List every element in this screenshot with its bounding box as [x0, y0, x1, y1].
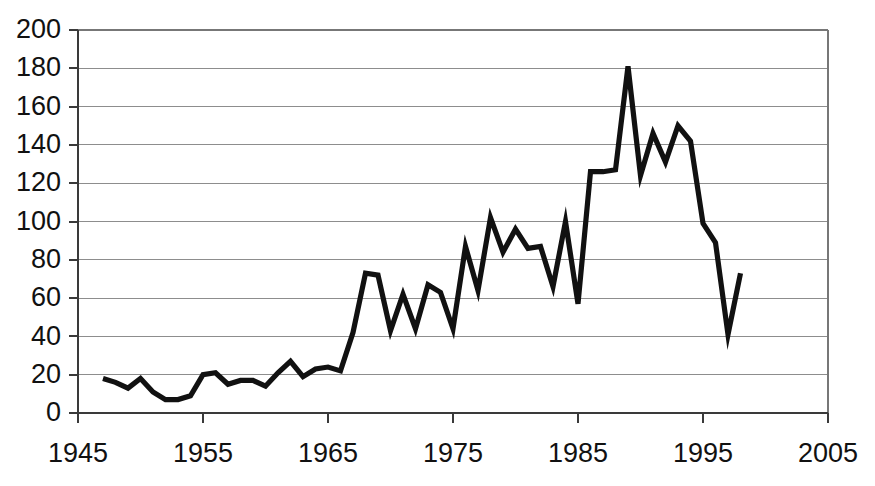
y-tick-label-100: 100: [16, 206, 61, 236]
y-tick-label-160: 160: [16, 91, 61, 121]
x-tick-label-1995: 1995: [673, 438, 733, 468]
y-tick-label-0: 0: [46, 397, 61, 427]
x-axis-ticks: [78, 413, 828, 423]
x-tick-label-2005: 2005: [798, 438, 858, 468]
y-axis-tick-labels: 020406080100120140160180200: [16, 14, 61, 427]
chart-canvas: 020406080100120140160180200 194519551965…: [0, 0, 875, 486]
y-tick-label-200: 200: [16, 14, 61, 44]
x-tick-label-1975: 1975: [423, 438, 483, 468]
y-tick-label-20: 20: [31, 359, 61, 389]
y-tick-label-120: 120: [16, 167, 61, 197]
line-chart-figure: 020406080100120140160180200 194519551965…: [0, 0, 875, 486]
x-tick-label-1965: 1965: [298, 438, 358, 468]
x-tick-label-1945: 1945: [48, 438, 108, 468]
y-axis-ticks: [69, 30, 78, 413]
x-tick-label-1985: 1985: [548, 438, 608, 468]
data-series-group: [103, 66, 741, 399]
series-line-1: [103, 66, 741, 399]
y-tick-label-140: 140: [16, 129, 61, 159]
x-tick-label-1955: 1955: [173, 438, 233, 468]
y-tick-label-60: 60: [31, 282, 61, 312]
y-tick-label-40: 40: [31, 321, 61, 351]
y-tick-label-80: 80: [31, 244, 61, 274]
y-tick-label-180: 180: [16, 52, 61, 82]
x-axis-tick-labels: 1945195519651975198519952005: [48, 438, 858, 468]
